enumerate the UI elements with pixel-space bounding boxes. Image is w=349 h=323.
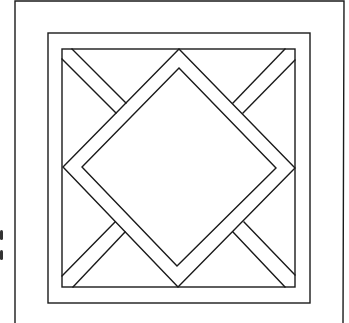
- corner-strips: [62, 49, 295, 287]
- corner-strip-bottom-right: [244, 222, 295, 275]
- edge-mark: [0, 250, 3, 260]
- diamond-inner-shape: [82, 68, 276, 266]
- edge-mark: [0, 230, 3, 240]
- center-diamond-outer: [63, 49, 295, 287]
- inner-frame-rect: [62, 49, 295, 287]
- corner-strip-top-left: [72, 49, 126, 103]
- middle-frame: [48, 33, 310, 303]
- diamond-outer-shape: [63, 49, 295, 287]
- corner-strip-bottom-left: [73, 232, 125, 287]
- corner-strip-top-left: [62, 59, 116, 113]
- middle-frame-rect: [48, 33, 310, 303]
- center-diamond-inner: [82, 68, 276, 266]
- corner-strip-top-right: [243, 60, 295, 113]
- geometric-pattern-drawing: [0, 0, 349, 323]
- corner-strip-bottom-left: [62, 222, 115, 276]
- corner-strip-bottom-right: [233, 232, 285, 287]
- inner-frame: [62, 49, 295, 287]
- edge-marks: [0, 230, 3, 260]
- corner-strip-top-right: [233, 49, 285, 103]
